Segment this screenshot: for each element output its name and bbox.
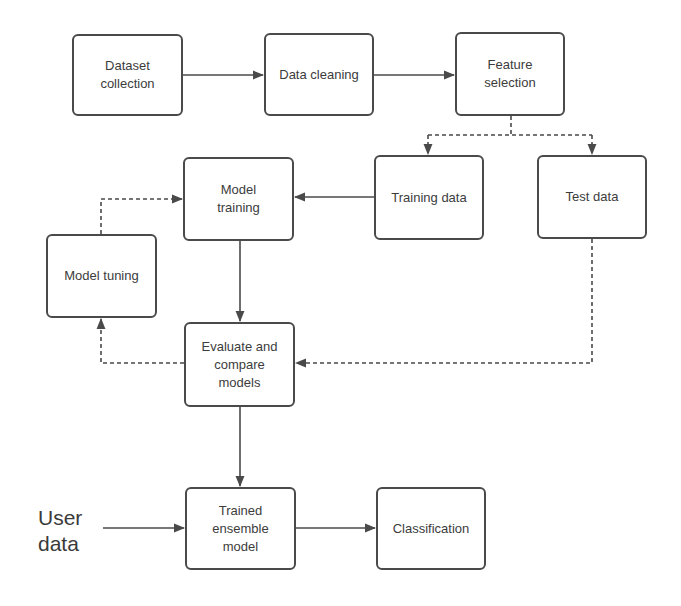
node-evaluate-compare: Evaluate and compare models <box>184 322 295 407</box>
edge-test-data-to-evaluate <box>296 239 592 363</box>
edge-evaluate-to-tuning <box>101 319 184 363</box>
node-model-training: Model training <box>183 157 294 241</box>
edge-tuning-to-model-training <box>101 199 182 234</box>
node-test-data: Test data <box>537 155 647 239</box>
user-data-label: User data <box>38 505 82 557</box>
node-classification: Classification <box>376 487 486 570</box>
node-training-data: Training data <box>374 155 484 240</box>
node-data-cleaning: Data cleaning <box>264 33 374 116</box>
node-dataset-collection: Dataset collection <box>72 34 183 116</box>
node-model-tuning: Model tuning <box>46 234 157 318</box>
edge-feature-split <box>428 116 592 135</box>
node-trained-ensemble: Trained ensemble model <box>185 487 296 570</box>
node-feature-selection: Feature selection <box>455 32 565 116</box>
